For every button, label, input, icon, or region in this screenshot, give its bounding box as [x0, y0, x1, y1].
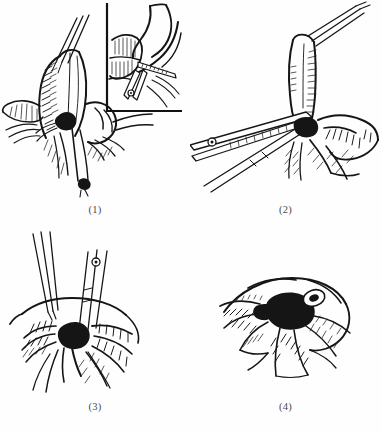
lower-folds: [240, 350, 336, 377]
panel-4-illustration: [190, 220, 381, 402]
tissue-forceps: [308, 2, 370, 46]
cecum: [308, 116, 378, 180]
figure-panel-1: (1): [0, 0, 190, 220]
cecum: [86, 102, 153, 143]
crushed-base: [294, 117, 319, 137]
ligature-suture: [72, 128, 91, 197]
ligature-knot: [58, 322, 90, 382]
figure-sheet: (1): [0, 0, 381, 432]
needle-holder: [79, 250, 107, 330]
lower-tissue-folds: [44, 133, 124, 178]
panel-3-illustration: [0, 220, 190, 402]
panel-3-caption: (3): [0, 402, 190, 413]
panel-1-illustration: [0, 0, 190, 205]
tissue-forceps: [33, 232, 58, 320]
figure-panel-3: (3): [0, 220, 190, 432]
panel-4-caption: (4): [190, 402, 381, 413]
lower-strands: [33, 350, 110, 392]
inset-detail-artwork: [109, 4, 181, 107]
mesoappendix: [3, 101, 43, 143]
appendix: [289, 35, 316, 124]
figure-panel-4: (4): [190, 220, 381, 432]
figure-panel-2: (2): [190, 0, 381, 220]
panel-1-caption: (1): [0, 205, 190, 216]
panel-2-illustration: [190, 0, 381, 205]
tissue-tags: [285, 142, 302, 180]
left-tissue-fan: [22, 321, 56, 362]
panel-2-caption: (2): [190, 205, 381, 216]
